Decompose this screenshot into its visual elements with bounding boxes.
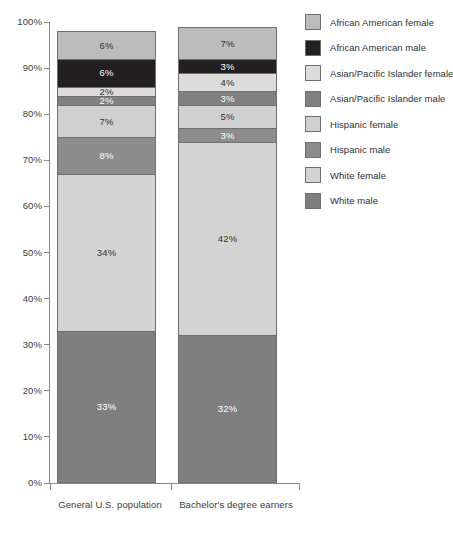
bar-segment[interactable]: 7% [178, 27, 277, 59]
legend-label: Asian/Pacific Islander male [330, 93, 445, 104]
bar-segment-label: 42% [218, 234, 238, 244]
plot-area: 6%6%2%2%7%8%34%33%7%3%4%3%5%3%42%32% [50, 22, 300, 483]
legend-label: White female [330, 170, 386, 181]
bar-segment[interactable]: 3% [178, 128, 277, 142]
bar-segment-label: 33% [97, 402, 117, 412]
bar-segment-label: 7% [220, 39, 234, 49]
legend-item[interactable]: Asian/Pacific Islander male [305, 91, 445, 107]
y-tick-label: 50% [23, 247, 42, 259]
legend-swatch [305, 65, 321, 81]
y-axis: 100%90%80%70%60%50%40%30%20%10%0% [0, 16, 50, 505]
y-tick-40: 40% [0, 293, 50, 305]
bar-segment[interactable]: 2% [57, 96, 156, 105]
y-tick-label: 70% [23, 154, 42, 166]
bar-segment[interactable]: 7% [57, 105, 156, 137]
bar-segment[interactable]: 5% [178, 105, 277, 128]
x-tick-mark-1 [171, 483, 172, 490]
legend-swatch [305, 14, 321, 30]
bar-segment[interactable]: 3% [178, 59, 277, 73]
bar-segment[interactable]: 4% [178, 73, 277, 91]
y-tick-100: 100% [0, 16, 50, 28]
legend-label: African American male [330, 42, 426, 53]
bar-segment-label: 2% [99, 87, 113, 96]
bar-segment-label: 4% [220, 78, 234, 88]
legend-label: Hispanic female [330, 119, 398, 130]
bar-segment[interactable]: 33% [57, 331, 156, 483]
legend-item[interactable]: White male [305, 193, 378, 209]
y-tick-label: 40% [23, 293, 42, 305]
bar-segment-label: 5% [220, 112, 234, 122]
y-tick-10: 10% [0, 431, 50, 443]
bar-segment[interactable]: 2% [57, 87, 156, 96]
bar-segment[interactable]: 6% [57, 31, 156, 59]
legend-label: Asian/Pacific Islander female [330, 68, 453, 79]
y-tick-90: 90% [0, 62, 50, 74]
legend-swatch [305, 91, 321, 107]
legend-item[interactable]: African American male [305, 40, 426, 56]
y-tick-80: 80% [0, 108, 50, 120]
x-tick-label-0: General U.S. population [50, 499, 170, 510]
legend-item[interactable]: Asian/Pacific Islander female [305, 65, 453, 81]
legend-item[interactable]: White female [305, 167, 386, 183]
x-tick-mark-2 [299, 483, 300, 490]
x-tick-mark-0 [50, 483, 51, 490]
bar-segment[interactable]: 3% [178, 91, 277, 105]
bar-stack-0[interactable]: 6%6%2%2%7%8%34%33% [57, 31, 156, 483]
legend-item[interactable]: Hispanic female [305, 116, 398, 132]
bar-segment[interactable]: 34% [57, 174, 156, 331]
legend-item[interactable]: African American female [305, 14, 434, 30]
bar-segment[interactable]: 6% [57, 59, 156, 87]
bar-segment-label: 3% [220, 94, 234, 104]
y-tick-60: 60% [0, 200, 50, 212]
y-tick-label: 10% [23, 431, 42, 443]
y-tick-50: 50% [0, 247, 50, 259]
legend-swatch [305, 142, 321, 158]
bar-segment-label: 6% [99, 41, 113, 51]
bar-segment-label: 3% [220, 62, 234, 72]
y-tick-label: 20% [23, 385, 42, 397]
bar-segment-label: 8% [99, 151, 113, 161]
y-tick-30: 30% [0, 339, 50, 351]
bar-segment-label: 2% [99, 96, 113, 105]
legend-label: White male [330, 195, 378, 206]
y-tick-label: 100% [17, 16, 42, 28]
legend-item[interactable]: Hispanic male [305, 142, 390, 158]
bar-segment[interactable]: 32% [178, 335, 277, 483]
y-tick-label: 60% [23, 200, 42, 212]
y-tick-label: 0% [28, 477, 42, 489]
y-tick-label: 30% [23, 339, 42, 351]
bar-segment-label: 3% [220, 131, 234, 141]
legend-label: Hispanic male [330, 144, 390, 155]
legend-swatch [305, 116, 321, 132]
bar-segment-label: 34% [97, 248, 117, 258]
legend-label: African American female [330, 17, 434, 28]
legend-swatch [305, 193, 321, 209]
x-tick-label-1: Bachelor's degree earners [172, 499, 300, 510]
bar-segment-label: 6% [99, 68, 113, 78]
bar-segment-label: 32% [218, 404, 238, 414]
bar-segment-label: 7% [99, 117, 113, 127]
legend-swatch [305, 40, 321, 56]
y-tick-20: 20% [0, 385, 50, 397]
x-axis-line [50, 483, 300, 484]
y-tick-70: 70% [0, 154, 50, 166]
y-tick-label: 90% [23, 62, 42, 74]
y-tick-0: 0% [0, 477, 50, 489]
bar-segment[interactable]: 42% [178, 142, 277, 336]
y-tick-label: 80% [23, 108, 42, 120]
bar-stack-1[interactable]: 7%3%4%3%5%3%42%32% [178, 27, 277, 483]
bar-segment[interactable]: 8% [57, 137, 156, 174]
legend-swatch [305, 167, 321, 183]
